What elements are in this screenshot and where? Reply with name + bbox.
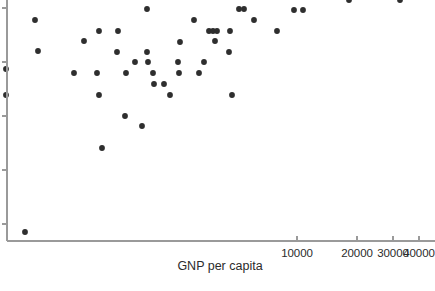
data-point <box>132 59 138 65</box>
x-axis-title: GNP per capita <box>177 259 262 273</box>
data-point <box>229 92 235 98</box>
data-point <box>151 81 157 87</box>
data-point <box>71 70 77 76</box>
x-tick-label-40000: 40000 <box>403 247 434 259</box>
data-point <box>144 6 150 12</box>
data-point <box>81 38 87 44</box>
data-point <box>227 28 233 34</box>
data-point <box>226 49 232 55</box>
data-point <box>22 229 28 235</box>
x-tick-label-20000: 20000 <box>341 247 372 259</box>
data-point <box>3 92 9 98</box>
data-point <box>300 7 306 13</box>
data-point <box>94 70 100 76</box>
data-point <box>274 28 280 34</box>
plot-canvas: 10000200003000040000 GNP per capita <box>0 0 435 291</box>
data-point <box>212 38 218 44</box>
x-tick-label-layer: 10000200003000040000 <box>281 247 434 259</box>
data-point <box>99 145 105 151</box>
data-point <box>214 28 220 34</box>
data-point <box>176 70 182 76</box>
data-point <box>241 6 247 12</box>
data-point <box>397 0 403 3</box>
data-point <box>96 92 102 98</box>
data-point <box>139 123 145 129</box>
data-point <box>191 17 197 23</box>
x-tick-label-10000: 10000 <box>281 247 312 259</box>
data-point <box>236 6 242 12</box>
data-point <box>122 113 128 119</box>
data-point <box>161 81 167 87</box>
data-point <box>175 59 181 65</box>
data-point <box>3 66 9 72</box>
data-point <box>177 39 183 45</box>
data-point <box>145 59 151 65</box>
data-point <box>251 17 257 23</box>
data-point <box>196 70 202 76</box>
data-point <box>201 59 207 65</box>
scatter-plot-figure: 10000200003000040000 GNP per capita <box>0 0 435 291</box>
data-point <box>115 28 121 34</box>
data-point <box>96 28 102 34</box>
data-point-layer <box>3 0 403 235</box>
data-point <box>123 70 129 76</box>
data-point <box>144 49 150 55</box>
data-point <box>150 70 156 76</box>
data-point <box>346 0 352 3</box>
axis-layer <box>2 0 435 241</box>
data-point <box>32 17 38 23</box>
data-point <box>291 7 297 13</box>
data-point <box>35 48 41 54</box>
data-point <box>114 49 120 55</box>
data-point <box>167 92 173 98</box>
